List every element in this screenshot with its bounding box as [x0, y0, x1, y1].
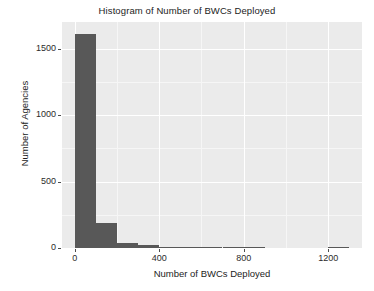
gridline-major-horizontal [62, 182, 362, 183]
x-axis-tick-mark [75, 249, 76, 252]
y-axis-tick-label: 1500 [14, 43, 56, 53]
gridline-minor-horizontal [62, 82, 362, 83]
x-axis-title: Number of BWCs Deployed [62, 268, 362, 279]
y-axis-tick-mark [58, 248, 61, 249]
histogram-bar [244, 247, 265, 248]
gridline-major-horizontal [62, 115, 362, 116]
histogram-bar [328, 247, 349, 248]
gridline-minor-horizontal [62, 148, 362, 149]
y-axis-tick-mark [58, 115, 61, 116]
x-axis-tick-mark [244, 249, 245, 252]
gridline-major-horizontal [62, 49, 362, 50]
histogram-bar [159, 247, 180, 248]
x-axis-tick-label: 1200 [308, 253, 348, 263]
y-axis-tick-mark [58, 182, 61, 183]
gridline-major-vertical [159, 22, 160, 248]
histogram-bar [117, 243, 138, 248]
histogram-bar [180, 247, 201, 248]
chart-title: Histogram of Number of BWCs Deployed [0, 5, 374, 16]
plot-panel [62, 22, 362, 248]
y-axis-tick-label: 0 [14, 242, 56, 252]
x-axis-tick-mark [159, 249, 160, 252]
y-axis-title: Number of Agencies [19, 54, 30, 194]
y-axis-tick-mark [58, 49, 61, 50]
histogram-bar [75, 34, 96, 248]
histogram-bar [138, 245, 159, 248]
histogram-bar [96, 223, 117, 248]
x-axis-tick-label: 400 [139, 253, 179, 263]
chart-figure: Histogram of Number of BWCs Deployed 040… [0, 0, 374, 291]
gridline-major-vertical [328, 22, 329, 248]
x-axis-tick-label: 800 [224, 253, 264, 263]
gridline-minor-horizontal [62, 215, 362, 216]
x-axis-tick-mark [328, 249, 329, 252]
histogram-bar [223, 247, 244, 248]
gridline-major-vertical [244, 22, 245, 248]
histogram-bar [201, 247, 222, 248]
x-axis-tick-label: 0 [55, 253, 95, 263]
